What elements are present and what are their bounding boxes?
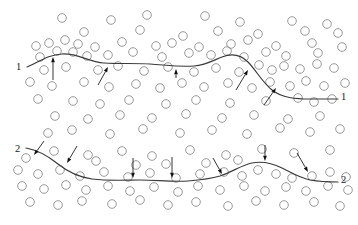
- boundary2-left-label: 2: [15, 143, 20, 154]
- boundary1-right-label: 1: [341, 91, 346, 102]
- boundary1-left-label: 1: [16, 61, 21, 72]
- figure-container: 1122: [0, 0, 358, 225]
- diagram-canvas: 1122: [0, 0, 358, 225]
- boundary2-right-label: 2: [341, 174, 346, 185]
